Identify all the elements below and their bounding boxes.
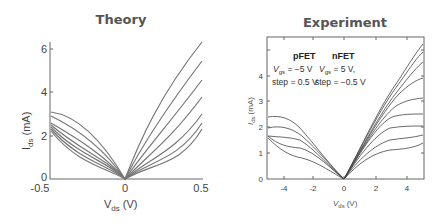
experiment-ytick: 0 (259, 175, 264, 184)
pfet-annotation: pFET Vgs = −5 V step = 0.5 V (272, 51, 318, 87)
experiment-ytick: 3 (259, 97, 264, 106)
experiment-xtick: 4 (405, 184, 410, 193)
experiment-xtick: 0 (342, 184, 347, 193)
theory-ylabel: Ids(mA) (20, 112, 35, 150)
theory-curves (51, 42, 202, 179)
theory-ytick: 6 (41, 43, 47, 55)
experiment-xtick: 2 (374, 184, 379, 193)
experiment-ytick: 2 (259, 123, 264, 132)
experiment-ytick: 1 (259, 149, 264, 158)
theory-xtick: -0.5 (31, 182, 50, 194)
theory-xtick: 0.5 (193, 182, 208, 194)
nfet-step: step = −0.5 V (315, 77, 366, 87)
pfet-vgs: Vgs = −5 V (273, 64, 313, 75)
figure: Theory 6 4 2 0 -0.5 0 0.5 Vds(V) Ids(mA) (0, 0, 445, 224)
pfet-step: step = 0.5 V (272, 77, 318, 87)
theory-xlabel: Vds(V) (104, 198, 137, 213)
theory-ytick: 4 (41, 86, 47, 98)
experiment-xlabel: Vds(V) (333, 199, 358, 209)
pfet-label: pFET (293, 51, 316, 61)
theory-xtick: 0 (122, 182, 128, 194)
nfet-label: nFET (332, 51, 355, 61)
experiment-title: Experiment (303, 15, 387, 30)
experiment-xtick: -4 (280, 184, 288, 193)
theory-title: Theory (96, 12, 147, 27)
experiment-ytick: 4 (259, 72, 264, 81)
theory-chart: Theory 6 4 2 0 -0.5 0 0.5 Vds(V) Ids(mA) (20, 12, 209, 213)
nfet-vgs: Vgs = 5 V, (319, 64, 355, 75)
experiment-xtick: -2 (309, 184, 317, 193)
theory-ytick: 2 (41, 130, 47, 142)
nfet-annotation: nFET Vgs = 5 V, step = −0.5 V (315, 51, 366, 87)
experiment-ylabel: Ids(mA) (246, 97, 256, 125)
experiment-chart: Experiment 0 1 2 (246, 15, 424, 209)
